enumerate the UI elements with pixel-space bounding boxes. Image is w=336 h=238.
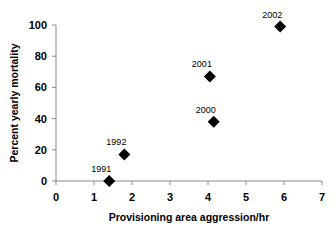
x-tick-label: 7 — [319, 191, 325, 203]
axes: 02040608010001234567 — [29, 19, 325, 203]
diamond-marker — [118, 148, 130, 160]
x-axis-title: Provisioning area aggression/hr — [109, 211, 269, 223]
y-tick-label: 20 — [35, 144, 47, 156]
diamond-marker — [208, 116, 220, 128]
y-tick-label: 100 — [29, 19, 47, 31]
y-tick-label: 40 — [35, 113, 47, 125]
y-tick-label: 80 — [35, 50, 47, 62]
data-points: 19911992200020012002 — [91, 10, 286, 187]
y-tick-label: 0 — [41, 175, 47, 187]
x-tick-label: 2 — [129, 191, 135, 203]
x-tick-label: 1 — [91, 191, 97, 203]
point-label: 2002 — [262, 10, 282, 20]
point-label: 1992 — [106, 137, 126, 147]
x-tick-label: 3 — [167, 191, 173, 203]
point-label: 2000 — [196, 105, 216, 115]
y-tick-label: 60 — [35, 81, 47, 93]
x-tick-label: 5 — [243, 191, 249, 203]
point-label: 2001 — [192, 59, 212, 69]
x-tick-label: 0 — [53, 191, 59, 203]
point-label: 1991 — [91, 164, 111, 174]
diamond-marker — [103, 175, 115, 187]
scatter-chart: 02040608010001234567 1991199220002001200… — [0, 0, 336, 238]
y-axis-title: Percent yearly mortality — [8, 43, 20, 162]
diamond-marker — [274, 21, 286, 33]
x-tick-label: 4 — [205, 191, 212, 203]
x-tick-label: 6 — [281, 191, 287, 203]
diamond-marker — [204, 70, 216, 82]
